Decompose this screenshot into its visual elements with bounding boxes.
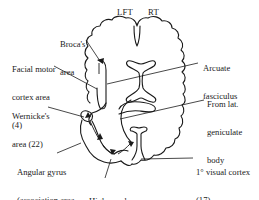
- leader-primary-visual: [141, 158, 193, 159]
- right-hemisphere-label: RT: [148, 8, 159, 17]
- angular-gyrus-label: Angular gyrus (association area 39): [17, 149, 75, 200]
- leader-higher-visual: [105, 159, 111, 178]
- lateral-ventricles: [126, 61, 155, 102]
- frontal-operculum-fold: [97, 60, 106, 109]
- leader-lat-geniculate: [120, 100, 204, 119]
- higher-visual-label: Higher order visual area (18): [89, 178, 142, 200]
- brain-language-pathway-diagram: LFT RT Broca's area Facial motor cortex …: [0, 0, 259, 200]
- arrowhead-broca: [97, 58, 104, 64]
- angular-gyrus-outline: [81, 120, 121, 163]
- occipital-contour: [114, 150, 132, 165]
- arrowhead-primary-visual: [128, 141, 134, 147]
- primary-visual-cortex-label: 1° visual cortex (17): [196, 149, 250, 200]
- visual-association-arrow: [90, 121, 130, 154]
- longitudinal-fissure-top: [134, 26, 140, 46]
- left-hemisphere-label: LFT: [117, 8, 133, 17]
- optic-radiation-curve: [121, 100, 131, 142]
- broca-label: Broca's area: [60, 21, 85, 96]
